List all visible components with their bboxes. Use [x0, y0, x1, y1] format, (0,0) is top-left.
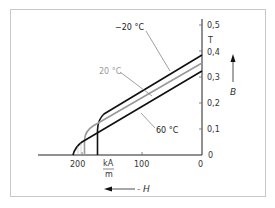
y-tick-label-0-2: 0,2 [207, 99, 220, 108]
leader-minus-20c [146, 31, 170, 71]
y-tick-label-0: 0 [208, 151, 213, 160]
up-arrow-icon [231, 54, 236, 62]
x-unit-denominator: m [105, 170, 113, 179]
leader-60c [141, 113, 155, 128]
label-60c: 60 °C [156, 126, 179, 135]
y-unit-label: T [207, 36, 213, 45]
y-tick-label-0-3: 0,3 [207, 73, 220, 82]
y-tick-label-0-1: 0,1 [207, 125, 220, 134]
label-minus-20c: −20 °C [115, 23, 144, 32]
x-tick-label-200: 200 [70, 160, 85, 169]
x-axis-name: - H [137, 184, 150, 194]
y-axis-name: B [230, 87, 236, 97]
y-tick-label-0-4: 0,4 [207, 48, 220, 57]
x-tick-label-100: 100 [134, 160, 149, 169]
x-tick-label-0: 0 [198, 160, 203, 169]
curve-20c [85, 63, 203, 155]
left-arrow-icon [104, 187, 112, 192]
label-20c: 20 °C [99, 67, 122, 76]
y-tick-label-0-5: 0,5 [207, 21, 220, 30]
curve-60c [73, 71, 202, 155]
bh-demagnetization-chart: 0 0,1 0,2 0,3 0,4 T 0,5 0 100 200 kA m -… [0, 0, 275, 208]
x-unit-numerator: kA [103, 159, 114, 168]
leader-20c [120, 72, 152, 96]
